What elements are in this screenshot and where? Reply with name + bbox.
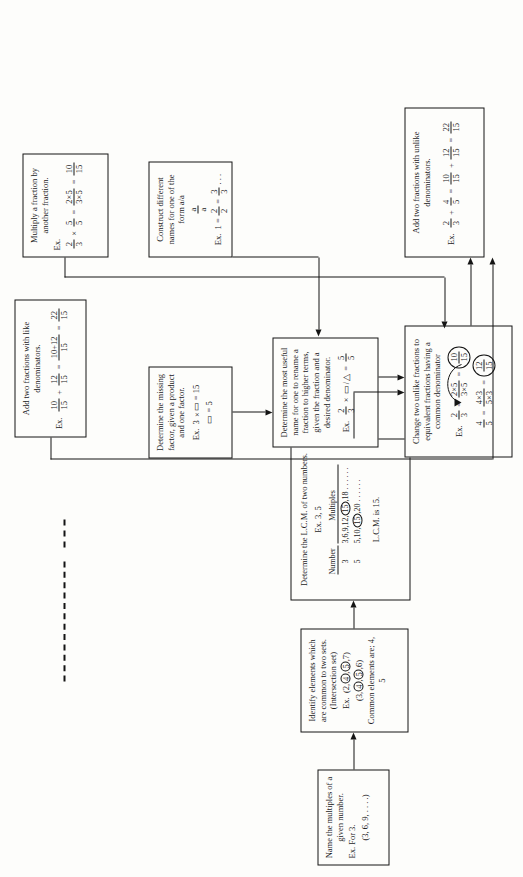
table-row: 3 3,6,9,12,15,18 . . . . . .	[340, 464, 350, 574]
box-lcm-example: Ex. 3, 5	[312, 447, 323, 591]
box-multiply-example-label: Ex.	[51, 160, 62, 250]
connector-arrow-1	[350, 732, 356, 739]
box-determine-name-example: Ex. 23 × ▭/△ = 55	[336, 344, 355, 440]
table-row: 5 5,10,15,20 . . . . . .	[352, 464, 362, 574]
connector-arrow-8	[467, 257, 473, 264]
box-intersection-result: Common elements are; 4, 5	[365, 635, 386, 725]
dashed-divider-2	[63, 519, 65, 547]
connector-missing-to-determine-v	[232, 411, 265, 412]
curved-arrow-icon	[441, 324, 469, 456]
box-add-like-heading: Add two fractions with like denominators…	[20, 306, 41, 430]
dashed-divider	[63, 561, 65, 681]
box-lcm-heading: Determine the L.C.M. of two numbers.	[298, 447, 309, 591]
box-add-unlike-example: Ex. 23 + 45 = 1015 + 1215 = 2215	[441, 114, 460, 250]
connector-change-to-addunlike-h	[470, 264, 471, 325]
box-missing-factor: Determine the missing factor, given a pr…	[148, 366, 232, 458]
box-lcm-result: L.C.M. is 15.	[370, 447, 381, 591]
box-lcm: Determine the L.C.M. of two numbers. Ex.…	[290, 438, 410, 600]
connector-arrow-9	[489, 257, 495, 264]
box-name-multiples: Name the multiples of a given number. Ex…	[317, 769, 389, 865]
box-missing-factor-example: Ex. 3 ×▭ = 15	[190, 373, 201, 451]
box-intersection-example: Ex. (2,4,5,7)	[340, 635, 351, 725]
connector-multiples-to-lcm-h	[353, 739, 354, 769]
diagram-page: Name the multiples of a given number. Ex…	[0, 0, 523, 877]
connector-arrow-6	[441, 321, 447, 328]
connector-multiply-h-bottom	[444, 277, 445, 321]
connector-construct-v	[232, 256, 318, 257]
connector-arrow-7	[397, 375, 404, 381]
box-construct-names: Construct different names for one of the…	[148, 161, 232, 257]
box-intersection-example-2: (3,4,5,6)	[353, 635, 364, 725]
diagram-canvas: Name the multiples of a given number. Ex…	[0, 0, 523, 877]
box-change-unlike-example-2: 45 = 4×35×3 = 1215	[472, 332, 495, 450]
connector-determine-to-change-v	[378, 376, 397, 377]
connector-arrow-5	[315, 329, 321, 336]
connector-lcm-to-change-v	[353, 391, 397, 392]
connector-addlike-h-top	[50, 437, 51, 459]
box-change-unlike: Change two unlike fractions to equivalen…	[404, 325, 512, 457]
box-missing-factor-heading: Determine the missing factor, given a pr…	[154, 373, 186, 451]
connector-intersection-to-lcm-h	[353, 607, 354, 628]
box-missing-factor-example-2: ▭ = 5	[203, 373, 214, 451]
box-construct-names-form: aa	[188, 168, 207, 250]
box-add-like: Add two fractions with like denominators…	[14, 299, 86, 437]
box-construct-names-example: Ex. 1 = 22 = 33 . . .	[209, 168, 228, 250]
box-intersection: Identify elements which are common to tw…	[300, 628, 408, 732]
box-name-multiples-heading: Name the multiples of a given number.	[323, 776, 344, 858]
box-name-multiples-result: (3, 6, 9, . . . .)	[359, 776, 370, 858]
box-determine-name-heading: Determine the most useful name for one t…	[278, 344, 331, 440]
connector-arrow-4	[265, 410, 272, 416]
connector-arrow-3	[397, 390, 404, 396]
box-change-unlike-heading: Change two unlike fractions to equivalen…	[410, 332, 442, 450]
box-name-multiples-example: Ex. For 3.	[346, 776, 357, 858]
connector-lcm-to-change-h	[353, 392, 354, 438]
connector-multiply-v	[64, 276, 444, 277]
connector-multiply-h-top	[64, 257, 65, 277]
connector-arrow-2	[350, 600, 356, 607]
box-intersection-heading: Identify elements which are common to tw…	[306, 635, 338, 725]
box-add-like-example: Ex. 1015 + 1215 = 10+1215 = 2215	[49, 306, 68, 430]
connector-construct-to-determine-h	[318, 257, 319, 329]
connector-addlike-h-bottom	[492, 264, 493, 459]
box-add-unlike-heading: Add two fractions with unlike denominato…	[410, 114, 431, 250]
box-multiply: Multiply a fraction by another fraction.…	[22, 153, 108, 257]
connector-addlike-v	[50, 458, 492, 459]
lcm-col-number: Number	[327, 545, 338, 574]
box-lcm-table: Number Multiples 3 3,6,9,12,15,18 . . . …	[325, 462, 364, 576]
box-add-unlike: Add two fractions with unlike denominato…	[404, 107, 484, 257]
box-construct-names-heading: Construct different names for one of the…	[154, 168, 186, 250]
box-multiply-example: 23 × 55 = 2×53×5 = 1015	[64, 160, 83, 250]
box-multiply-heading: Multiply a fraction by another fraction.	[28, 160, 49, 250]
lcm-col-multiples: Multiples	[327, 464, 338, 543]
